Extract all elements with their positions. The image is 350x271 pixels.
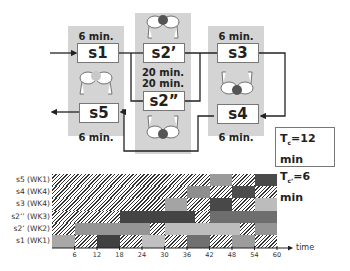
time-axis bbox=[0, 0, 350, 271]
tick-label: 42 bbox=[202, 251, 218, 259]
tick-label: 6 bbox=[67, 251, 83, 259]
tick-label: 30 bbox=[157, 251, 173, 259]
tick-label: 12 bbox=[89, 251, 105, 259]
tick-label: 60 bbox=[269, 251, 285, 259]
tick-label: 48 bbox=[224, 251, 240, 259]
tick-label: 36 bbox=[179, 251, 195, 259]
tick-label: 18 bbox=[112, 251, 128, 259]
tick-label: 24 bbox=[134, 251, 150, 259]
axis-label-time: time bbox=[296, 243, 314, 252]
tick-label: 54 bbox=[247, 251, 263, 259]
